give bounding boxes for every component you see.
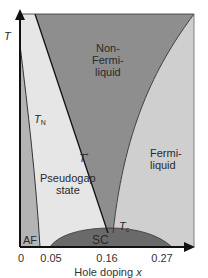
t-star-label: T* <box>79 150 88 164</box>
non-fermi-liquid-line-3: liquid <box>92 66 124 78</box>
t-star-superscript: * <box>86 152 89 159</box>
t-c-main: T <box>119 220 126 232</box>
sc-label: SC <box>92 234 109 246</box>
pseudogap-line-2: state <box>40 184 96 196</box>
non-fermi-liquid-label: Non- Fermi- liquid <box>92 42 124 78</box>
pseudogap-line-1: Pseudogap <box>40 172 96 184</box>
x-tick-0: 0 <box>18 252 24 264</box>
fermi-liquid-line-2: liquid <box>150 159 182 171</box>
fermi-liquid-label: Fermi- liquid <box>150 147 182 171</box>
y-axis-label: T <box>4 30 11 42</box>
t-star-main: T <box>79 152 86 164</box>
t-c-label: Tc <box>119 220 129 236</box>
x-axis-title-text: Hole doping <box>74 266 133 278</box>
non-fermi-liquid-line-1: Non- <box>92 42 124 54</box>
x-axis-title: Hole doping x <box>74 266 141 278</box>
t-n-label: TN <box>34 113 46 129</box>
x-tick-0-27: 0.27 <box>151 252 172 264</box>
t-n-subscript: N <box>41 119 46 126</box>
fermi-liquid-line-1: Fermi- <box>150 147 182 159</box>
pseudogap-label: Pseudogap state <box>40 172 96 196</box>
non-fermi-liquid-line-2: Fermi- <box>92 54 124 66</box>
x-axis-variable: x <box>136 266 142 278</box>
t-n-main: T <box>34 113 41 125</box>
x-tick-0-05: 0.05 <box>40 252 61 264</box>
x-tick-0-16: 0.16 <box>96 252 117 264</box>
t-c-subscript: c <box>126 226 130 233</box>
af-label: AF <box>23 234 37 246</box>
